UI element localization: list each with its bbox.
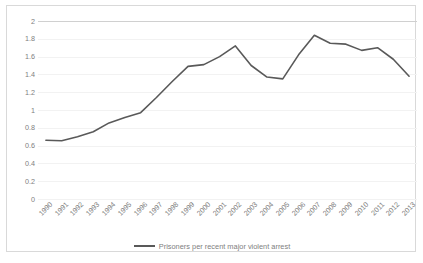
y-axis: 00.20.40.60.811.21.41.61.82 xyxy=(13,16,35,204)
y-axis-tick-label: 0.2 xyxy=(13,177,35,186)
legend-item-label: Prisoners per recent major violent arres… xyxy=(159,242,290,251)
legend-line-swatch xyxy=(134,245,155,247)
y-axis-tick-label: 1.6 xyxy=(13,52,35,61)
y-axis-tick-label: 1 xyxy=(13,106,35,115)
series-line-prisoners-per-recent-major-violent-arrest xyxy=(46,35,409,140)
chart-legend: Prisoners per recent major violent arres… xyxy=(7,239,417,253)
y-axis-tick-label: 0.6 xyxy=(13,141,35,150)
y-axis-tick-label: 0.8 xyxy=(13,123,35,132)
y-axis-tick-label: 2 xyxy=(13,17,35,26)
y-axis-tick-label: 1.2 xyxy=(13,88,35,97)
plot-area xyxy=(38,21,417,199)
y-axis-tick-label: 1.8 xyxy=(13,34,35,43)
y-axis-tick-label: 0.4 xyxy=(13,159,35,168)
y-axis-tick-label: 0 xyxy=(13,195,35,204)
chart-frame: 00.20.40.60.811.21.41.61.82 199019911992… xyxy=(6,5,416,252)
chart-figure: 00.20.40.60.811.21.41.61.82 199019911992… xyxy=(0,0,423,263)
series-line-chart xyxy=(38,21,417,199)
y-axis-tick-label: 1.4 xyxy=(13,70,35,79)
x-axis: 1990199119921993199419951996199719981999… xyxy=(38,200,417,240)
